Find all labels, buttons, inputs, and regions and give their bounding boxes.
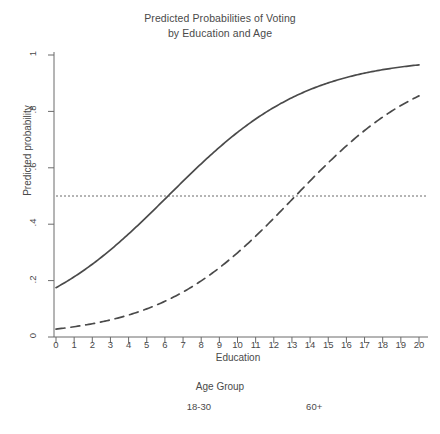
x-tick-label: 8 [191, 339, 211, 350]
x-tick-label: 5 [137, 339, 157, 350]
x-tick-label: 18 [373, 339, 393, 350]
x-tick-label: 6 [155, 339, 175, 350]
x-tick-label: 10 [228, 339, 248, 350]
x-tick-label: 19 [391, 339, 411, 350]
series-line-60+ [56, 65, 419, 288]
x-tick-label: 4 [119, 339, 139, 350]
legend-title: Age Group [0, 381, 440, 392]
y-tick-label: .8 [27, 99, 38, 121]
x-tick-label: 0 [46, 339, 66, 350]
y-axis-ticks [48, 55, 54, 337]
axis-lines [54, 52, 428, 337]
legend-entry-18-30[interactable]: 18-30 [118, 401, 211, 412]
x-axis-label: Education [56, 352, 420, 363]
series-line-18-30 [56, 96, 419, 329]
x-tick-label: 3 [100, 339, 120, 350]
legend-swatch-solid [237, 406, 299, 408]
legend-label: 60+ [306, 401, 322, 412]
y-tick-label: .4 [27, 212, 38, 234]
x-tick-label: 17 [355, 339, 375, 350]
legend-entry-60+[interactable]: 60+ [237, 401, 322, 412]
chart-figure: Predicted Probabilities of Voting by Edu… [0, 0, 440, 434]
x-tick-label: 14 [300, 339, 320, 350]
legend: 18-3060+ [0, 401, 440, 412]
y-tick-label: 0 [27, 325, 38, 347]
x-tick-label: 2 [82, 339, 102, 350]
x-tick-label: 9 [209, 339, 229, 350]
y-tick-label: 1 [27, 43, 38, 65]
legend-swatch-dashed [118, 406, 180, 408]
y-tick-label: .6 [27, 155, 38, 177]
legend-label: 18-30 [187, 401, 211, 412]
x-tick-label: 7 [173, 339, 193, 350]
data-series-group [56, 65, 419, 329]
x-tick-label: 1 [64, 339, 84, 350]
x-tick-label: 15 [318, 339, 338, 350]
x-tick-label: 20 [409, 339, 429, 350]
x-tick-label: 11 [246, 339, 266, 350]
x-tick-label: 12 [264, 339, 284, 350]
x-tick-label: 16 [336, 339, 356, 350]
plot-area [0, 0, 440, 434]
x-tick-label: 13 [282, 339, 302, 350]
y-axis-label: Predicted probability [22, 71, 33, 231]
y-tick-label: .2 [27, 268, 38, 290]
